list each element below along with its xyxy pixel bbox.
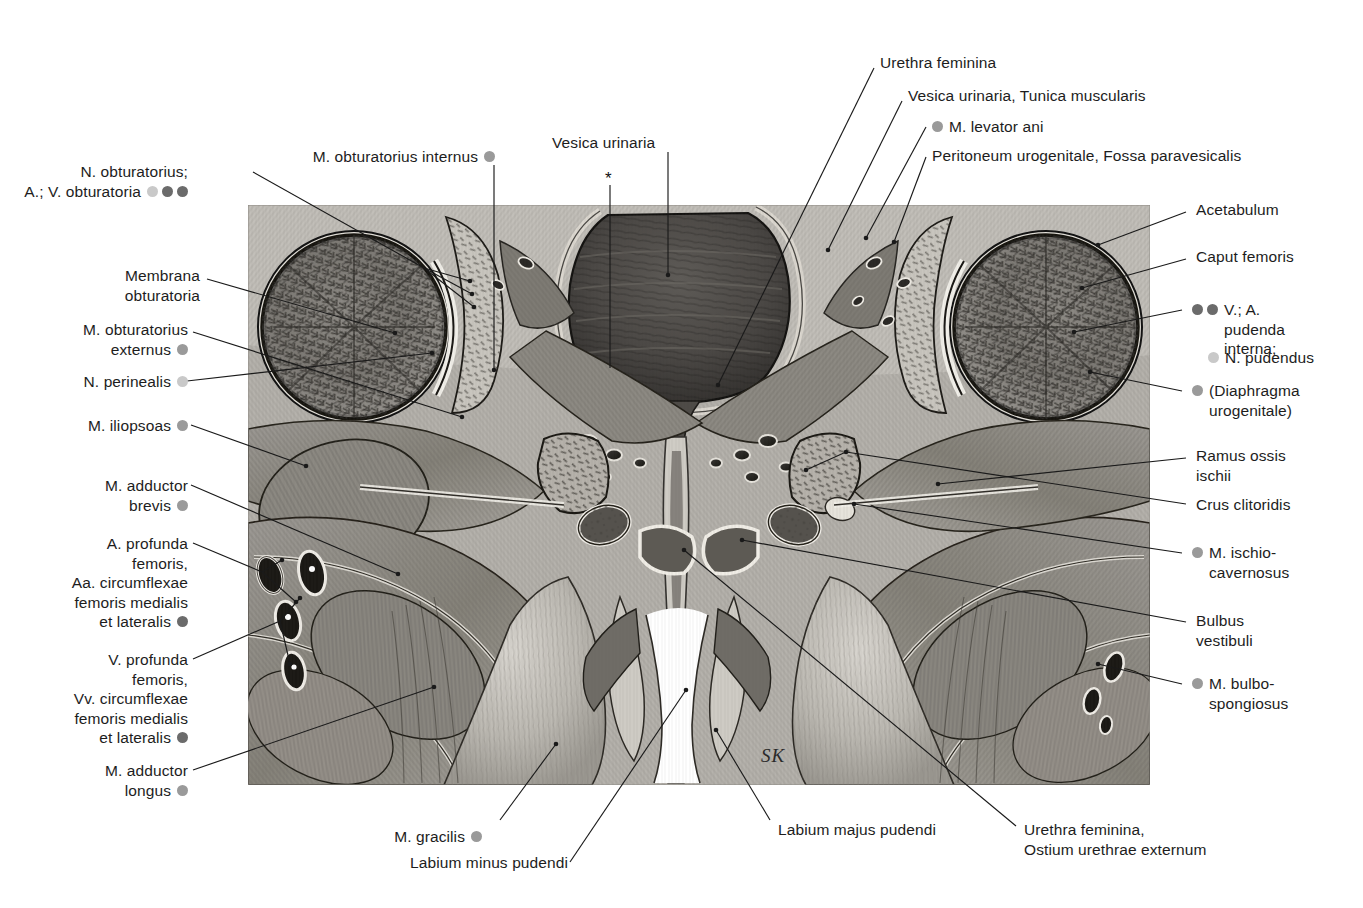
key-dot-muscle: [471, 831, 482, 842]
label-urethra-feminina[interactable]: Urethra feminina: [880, 53, 996, 73]
label-v-profunda-femoris[interactable]: V. profunda femoris, Vv. circumflexae fe…: [0, 650, 188, 748]
label-a-profunda-femoris[interactable]: A. profunda femoris, Aa. circumflexae fe…: [0, 534, 188, 632]
label-caput-femoris[interactable]: Caput femoris: [1196, 247, 1294, 267]
key-dot-artery: [162, 186, 173, 197]
key-dot-vein: [177, 732, 188, 743]
label-acetabulum-text: Acetabulum: [1196, 201, 1279, 218]
label-m-adductor-longus[interactable]: M. adductor longus: [0, 761, 188, 800]
key-dot-muscle: [484, 151, 495, 162]
label-diaphragma-urogenitale-text: (Diaphragma urogenitale): [1209, 381, 1300, 420]
label-a-profunda-femoris-text: A. profunda femoris, Aa. circumflexae fe…: [72, 535, 188, 630]
label-bulbus-vestibuli-text: Bulbus vestibuli: [1196, 612, 1253, 649]
label-m-gracilis[interactable]: M. gracilis: [300, 827, 482, 847]
key-dot-muscle: [177, 785, 188, 796]
key-dot-muscle: [177, 420, 188, 431]
key-dot-muscle: [177, 344, 188, 355]
label-peritoneum-urogenitale-text: Peritoneum urogenitale, Fossa paravesica…: [932, 147, 1241, 164]
asterisk-marker: *: [605, 170, 612, 187]
label-m-obturatorius-internus[interactable]: M. obturatorius internus: [255, 147, 495, 167]
key-dot-artery: [1207, 304, 1218, 315]
label-vesica-tunica[interactable]: Vesica urinaria, Tunica muscularis: [908, 86, 1146, 106]
label-m-obturatorius-internus-text: M. obturatorius internus: [313, 148, 478, 165]
anatomy-artwork: [248, 205, 1150, 785]
key-dot-muscle: [1192, 385, 1203, 396]
artist-signature: SK: [761, 745, 785, 767]
label-m-adductor-brevis-text: M. adductor brevis: [105, 477, 188, 514]
label-urethra-ostium[interactable]: Urethra feminina, Ostium urethrae extern…: [1024, 820, 1206, 859]
key-dot-muscle: [177, 500, 188, 511]
label-ramus-ossis-ischii-text: Ramus ossis ischii: [1196, 447, 1286, 484]
label-m-iliopsoas[interactable]: M. iliopsoas: [0, 416, 188, 436]
label-peritoneum-urogenitale[interactable]: Peritoneum urogenitale, Fossa paravesica…: [932, 146, 1241, 166]
label-m-obturatorius-externus-text: M. obturatorius externus: [83, 321, 188, 358]
label-m-gracilis-text: M. gracilis: [394, 828, 465, 845]
label-n-pudendus-text: N. pudendus: [1225, 349, 1314, 366]
key-dot-muscle: [1192, 678, 1203, 689]
label-m-obturatorius-externus[interactable]: M. obturatorius externus: [0, 320, 188, 359]
key-dot-muscle: [932, 121, 943, 132]
label-m-ischiocavernosus-text: M. ischio- cavernosus: [1209, 543, 1289, 582]
key-dot-artery: [177, 616, 188, 627]
anatomical-plate: SK *: [0, 0, 1363, 908]
label-vesica-urinaria-text: Vesica urinaria: [552, 134, 655, 151]
label-m-adductor-brevis[interactable]: M. adductor brevis: [0, 476, 188, 515]
label-v-profunda-femoris-text: V. profunda femoris, Vv. circumflexae fe…: [74, 651, 188, 746]
label-labium-majus-text: Labium majus pudendi: [778, 821, 936, 838]
label-n-perinealis-text: N. perinealis: [84, 373, 171, 390]
key-dot-muscle: [1192, 547, 1203, 558]
label-crus-clitoridis[interactable]: Crus clitoridis: [1196, 495, 1291, 515]
label-n-perinealis[interactable]: N. perinealis: [0, 372, 188, 392]
label-membrana-obturatoria[interactable]: Membrana obturatoria: [0, 266, 200, 305]
label-labium-minus[interactable]: Labium minus pudendi: [300, 853, 568, 873]
label-n-obturatorius[interactable]: N. obturatorius; A.; V. obturatoria: [0, 162, 188, 201]
label-urethra-ostium-text: Urethra feminina, Ostium urethrae extern…: [1024, 821, 1206, 858]
label-acetabulum[interactable]: Acetabulum: [1196, 200, 1279, 220]
label-m-levator-ani-text: M. levator ani: [949, 118, 1043, 135]
label-m-bulbospongiosus[interactable]: M. bulbo- spongiosus: [1192, 674, 1288, 713]
label-m-iliopsoas-text: M. iliopsoas: [88, 417, 171, 434]
label-bulbus-vestibuli[interactable]: Bulbus vestibuli: [1196, 611, 1253, 650]
label-vesica-urinaria[interactable]: Vesica urinaria: [552, 133, 655, 153]
label-diaphragma-urogenitale[interactable]: (Diaphragma urogenitale): [1192, 381, 1300, 420]
label-crus-clitoridis-text: Crus clitoridis: [1196, 496, 1291, 513]
key-dot-nerve: [177, 376, 188, 387]
label-urethra-feminina-text: Urethra feminina: [880, 54, 996, 71]
label-m-levator-ani[interactable]: M. levator ani: [932, 117, 1043, 137]
label-n-pudendus[interactable]: N. pudendus: [1208, 348, 1314, 368]
label-vesica-tunica-text: Vesica urinaria, Tunica muscularis: [908, 87, 1146, 104]
label-m-adductor-longus-text: M. adductor longus: [105, 762, 188, 799]
key-dot-vein: [1192, 304, 1203, 315]
key-dot-nerve: [147, 186, 158, 197]
label-m-ischiocavernosus[interactable]: M. ischio- cavernosus: [1192, 543, 1289, 582]
label-caput-femoris-text: Caput femoris: [1196, 248, 1294, 265]
label-labium-minus-text: Labium minus pudendi: [410, 854, 568, 871]
anatomy-illustration: SK: [248, 205, 1150, 785]
label-m-bulbospongiosus-text: M. bulbo- spongiosus: [1209, 674, 1288, 713]
label-membrana-obturatoria-text: Membrana obturatoria: [125, 267, 200, 304]
label-labium-majus[interactable]: Labium majus pudendi: [778, 820, 936, 840]
key-dot-nerve: [1208, 352, 1219, 363]
key-dot-vein: [177, 186, 188, 197]
label-ramus-ossis-ischii[interactable]: Ramus ossis ischii: [1196, 446, 1286, 485]
